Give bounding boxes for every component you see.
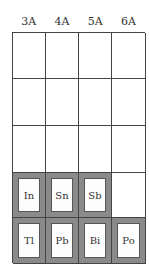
empty-cell <box>112 33 146 79</box>
element-box: Pb <box>51 223 73 258</box>
group-header-4a: 4A <box>45 14 78 30</box>
element-symbol: Sb <box>88 190 101 201</box>
element-cell-bi: Bi <box>79 218 112 264</box>
element-box: Bi <box>84 223 106 258</box>
element-symbol: Pb <box>55 235 68 246</box>
element-cell-sb: Sb <box>79 173 112 218</box>
empty-cell <box>112 173 146 218</box>
empty-cell <box>112 126 146 173</box>
empty-cell <box>13 79 46 126</box>
group-header-6a: 6A <box>112 14 145 30</box>
element-symbol: In <box>24 190 34 201</box>
empty-cell <box>46 79 79 126</box>
group-header-3a: 3A <box>12 14 45 30</box>
empty-cell <box>112 79 146 126</box>
element-box: In <box>18 178 40 212</box>
periodic-table-grid: InSnSbTlPbBiPo <box>12 32 145 263</box>
element-cell-pb: Pb <box>46 218 79 264</box>
empty-cell <box>79 126 112 173</box>
empty-cell <box>79 79 112 126</box>
element-box: Sn <box>51 178 73 212</box>
element-symbol: Bi <box>90 235 101 246</box>
empty-cell <box>46 126 79 173</box>
element-cell-tl: Tl <box>13 218 46 264</box>
group-headers: 3A 4A 5A 6A <box>12 14 145 30</box>
element-box: Po <box>117 223 140 258</box>
empty-cell <box>13 126 46 173</box>
element-box: Sb <box>84 178 106 212</box>
element-symbol: Tl <box>24 235 34 246</box>
element-symbol: Po <box>122 235 134 246</box>
element-cell-po: Po <box>112 218 146 264</box>
empty-cell <box>46 33 79 79</box>
element-symbol: Sn <box>55 190 68 201</box>
element-cell-in: In <box>13 173 46 218</box>
element-cell-sn: Sn <box>46 173 79 218</box>
element-box: Tl <box>18 223 40 258</box>
empty-cell <box>13 33 46 79</box>
group-header-5a: 5A <box>79 14 112 30</box>
empty-cell <box>79 33 112 79</box>
